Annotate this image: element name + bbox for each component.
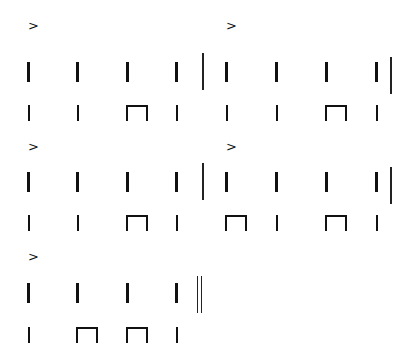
beamed-eighths-icon [126,105,148,121]
beamed-eighths-icon [325,215,347,231]
quarter-note-icon [176,327,178,343]
beamed-eighths-icon [76,327,98,343]
barline [390,167,392,204]
quarter-note-icon [28,105,30,121]
quarter-note-icon [376,105,378,121]
quarter-note-icon [175,283,178,303]
quarter-note-icon [76,283,79,303]
accent-mark: > [28,140,39,153]
quarter-note-icon [126,172,129,192]
quarter-note-icon [76,62,79,82]
quarter-note-icon [126,283,129,303]
quarter-note-icon [276,105,278,121]
barline [390,57,392,94]
beamed-eighths-icon [126,215,148,231]
quarter-note-icon [76,172,79,192]
quarter-note-icon [325,62,328,82]
barline [202,53,204,90]
accent-mark: > [226,19,237,32]
quarter-note-icon [77,215,79,231]
beamed-eighths-icon [325,105,347,121]
quarter-note-icon [375,62,378,82]
quarter-note-icon [27,172,30,192]
quarter-note-icon [225,172,228,192]
accent-mark: > [28,19,39,32]
quarter-note-icon [176,105,178,121]
quarter-note-icon [126,62,129,82]
quarter-note-icon [275,62,278,82]
quarter-note-icon [275,172,278,192]
quarter-note-icon [176,215,178,231]
quarter-note-icon [27,283,30,303]
quarter-note-icon [376,215,378,231]
quarter-note-icon [276,215,278,231]
quarter-note-icon [175,62,178,82]
quarter-note-icon [27,62,30,82]
barline [202,163,204,200]
accent-mark: > [28,250,39,263]
quarter-note-icon [375,172,378,192]
beamed-eighths-icon [225,215,247,231]
quarter-note-icon [28,327,30,343]
accent-mark: > [226,140,237,153]
beamed-eighths-icon [126,327,148,343]
quarter-note-icon [175,172,178,192]
quarter-note-icon [325,172,328,192]
double-barline [197,276,202,313]
quarter-note-icon [225,62,228,82]
quarter-note-icon [77,105,79,121]
quarter-note-icon [28,215,30,231]
quarter-note-icon [226,105,228,121]
